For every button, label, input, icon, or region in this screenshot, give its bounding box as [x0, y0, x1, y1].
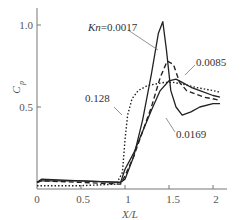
x-tick-label-0: 0: [34, 193, 40, 205]
series-line-0: [37, 22, 220, 183]
x-axis-label: X/L: [121, 208, 138, 220]
y-tick-label-1: 1.0: [19, 19, 33, 31]
x-tick-label-15: 1.5: [166, 193, 180, 205]
leader-0128: [114, 107, 122, 115]
annotation-kn0017: Kn=0.0017: [87, 21, 138, 33]
annotation-0169: 0.0169: [176, 128, 207, 140]
x-tick-label-05: 0.5: [76, 193, 90, 205]
y-tick-label-05: 0.5: [19, 101, 33, 113]
leader-kn0017: [128, 30, 158, 50]
leader-0085: [185, 65, 195, 75]
y-axis-label: C p: [10, 81, 26, 94]
series-line-1: [37, 61, 220, 184]
cp-vs-xl-chart: 1.0 0.5 0 0.5 1 1.5 2 X/L C p Kn=0.0017 …: [0, 0, 241, 220]
series-layer: [37, 22, 220, 186]
leader-0169: [166, 118, 175, 132]
annotation-0128: 0.128: [85, 92, 110, 104]
annotation-0085: 0.0085: [196, 56, 227, 68]
y-axis-label-main: C: [10, 86, 22, 94]
x-tick-label-2: 2: [213, 193, 219, 205]
y-axis-label-sub: p: [17, 81, 26, 86]
x-tick-label-1: 1: [125, 193, 131, 205]
